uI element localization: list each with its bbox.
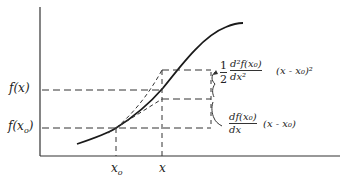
first-derivative-numerator: df(x₀) (229, 112, 257, 122)
second-order-tail: (x - x₀)² (276, 65, 313, 76)
second-order-approx-line (116, 70, 162, 128)
taylor-diagram (0, 0, 350, 187)
coef-numerator: 1 (220, 60, 227, 71)
first-order-tail: (x - x₀) (263, 118, 296, 129)
x-label: x (159, 161, 166, 175)
second-derivative-numerator: d²f(x₀) (230, 59, 262, 69)
second-order-coef: 1 2 (220, 60, 227, 85)
first-derivative-denominator: dx (229, 125, 257, 135)
fx0-label-prefix: f(x (8, 119, 24, 133)
second-order-brace-icon (212, 72, 215, 97)
second-derivative-denominator: dx² (230, 72, 262, 82)
x0-label-main: x (111, 161, 118, 175)
second-derivative-fraction: d²f(x₀) dx² (230, 59, 262, 82)
arrow-head-icon (213, 70, 218, 75)
fx0-label-suffix: ) (29, 119, 34, 133)
fx0-label: f(xo) (8, 119, 33, 135)
coef-denominator: 2 (220, 74, 227, 85)
function-curve (77, 23, 243, 144)
first-derivative-fraction: df(x₀) dx (229, 112, 257, 135)
first-order-brace-icon (212, 102, 222, 126)
x0-label-sub: o (118, 168, 123, 177)
fx-label: f(x) (9, 81, 30, 95)
x0-label: xo (111, 161, 123, 177)
